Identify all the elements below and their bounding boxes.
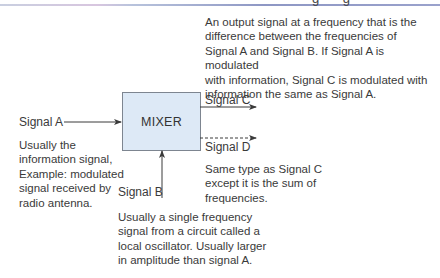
connector-lines xyxy=(0,0,440,278)
